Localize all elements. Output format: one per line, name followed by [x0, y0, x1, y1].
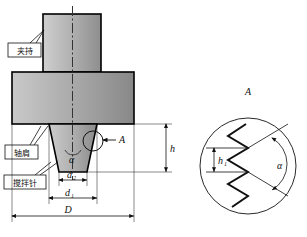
shoulder-leader-1 [34, 126, 48, 145]
dim-label-D: D [63, 204, 72, 215]
detail-view-title: A [244, 86, 252, 97]
detail-view-A: A h 1 α [200, 86, 296, 214]
dim-sub-h1: 1 [224, 161, 227, 167]
alpha-angle-label: α [69, 154, 75, 165]
detail-callout-label: A [118, 134, 126, 145]
shoulder-leader-2 [30, 126, 41, 145]
dim-label-h: h [170, 143, 175, 154]
diagram-svg: α A 夹持 轴肩 搅拌针 d 2 [0, 0, 307, 237]
dim-sub-d2: 2 [73, 175, 76, 181]
dim-sub-d1: 1 [71, 193, 74, 199]
figure-canvas: α A 夹持 轴肩 搅拌针 d 2 [0, 0, 307, 237]
dim-label-h1: h [218, 155, 223, 166]
clamp-label-text: 夹持 [17, 46, 33, 56]
dim-label-alpha-detail: α [277, 160, 283, 171]
pin-label-text: 搅拌针 [13, 178, 37, 188]
shoulder-label-text: 轴肩 [14, 148, 30, 158]
